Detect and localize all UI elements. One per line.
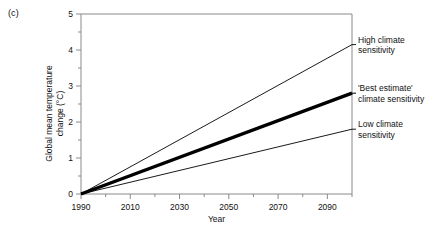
annotation-best-estimate-climate-sensitivity: 'Best estimate' climate sensitivity bbox=[358, 83, 424, 104]
series-line-0 bbox=[81, 45, 352, 194]
series-line-1 bbox=[81, 93, 352, 194]
y-tick-label: 2 bbox=[68, 117, 73, 127]
x-tick-label: 1990 bbox=[72, 202, 91, 212]
x-tick-label: 2070 bbox=[269, 202, 288, 212]
data-series-group bbox=[81, 45, 352, 194]
y-tick-label: 4 bbox=[68, 45, 73, 55]
y-tick-label: 1 bbox=[68, 153, 73, 163]
x-tick-label: 2030 bbox=[170, 202, 189, 212]
figure-panel-c: (c) Global mean temperature change (°C) … bbox=[0, 0, 440, 234]
annotation-low-line1: Low climate bbox=[358, 119, 403, 129]
x-tick-label: 2010 bbox=[121, 202, 140, 212]
x-tick-label: 2090 bbox=[318, 202, 337, 212]
annotation-best-line2: climate sensitivity bbox=[358, 94, 424, 105]
annotation-high-line2: sensitivity bbox=[358, 45, 405, 56]
x-tick-label: 2050 bbox=[219, 202, 238, 212]
y-tick-label: 3 bbox=[68, 81, 73, 91]
annotation-leader-lines bbox=[352, 45, 356, 130]
series-line-2 bbox=[81, 129, 352, 194]
y-tick-label: 0 bbox=[68, 189, 73, 199]
annotation-low-line2: sensitivity bbox=[358, 130, 403, 141]
axis-lines bbox=[81, 14, 352, 194]
y-tick-label: 5 bbox=[68, 9, 73, 19]
annotation-best-line1: 'Best estimate' bbox=[358, 83, 413, 93]
annotation-high-line1: High climate bbox=[358, 35, 405, 45]
y-axis-ticks: 012345 bbox=[68, 9, 81, 199]
annotation-low-climate-sensitivity: Low climate sensitivity bbox=[358, 119, 403, 140]
annotation-high-climate-sensitivity: High climate sensitivity bbox=[358, 35, 405, 56]
x-axis-ticks: 199020102030205020702090 bbox=[72, 194, 352, 212]
